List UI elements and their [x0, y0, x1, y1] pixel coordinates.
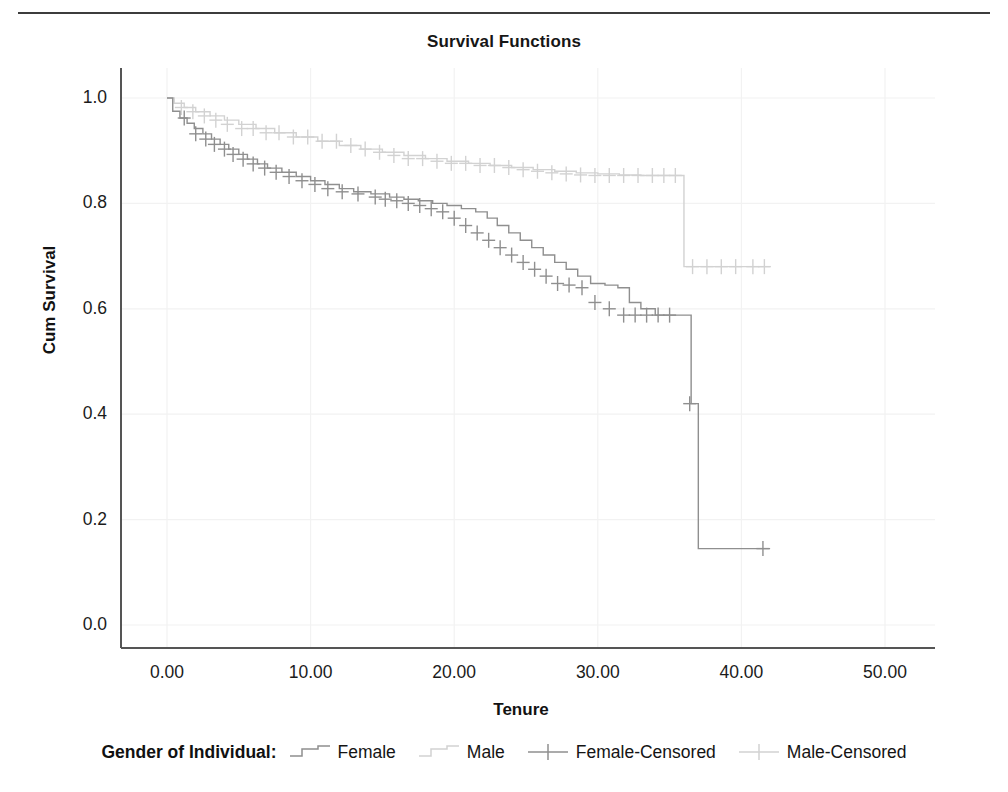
series-female [167, 98, 770, 556]
chart-legend: Gender of Individual: FemaleMaleFemale-C… [0, 735, 1008, 769]
chart-page: Survival Functions Cum Survival Tenure 0… [0, 0, 1008, 792]
y-tick-label: 0.2 [37, 509, 107, 530]
legend-item-male[interactable]: Male [418, 742, 505, 763]
y-tick-label: 0.0 [37, 614, 107, 635]
x-tick-label: 20.00 [404, 662, 504, 683]
x-tick-label: 50.00 [835, 662, 935, 683]
legend-item-label: Male-Censored [787, 742, 907, 763]
legend-item-label: Female-Censored [576, 742, 716, 763]
y-tick-label: 0.6 [37, 298, 107, 319]
censor-marks-male [175, 100, 771, 274]
legend-item-female-censored[interactable]: Female-Censored [527, 742, 716, 763]
plus-mark-icon [527, 742, 569, 762]
legend-item-label: Male [467, 742, 505, 763]
step-line-icon [289, 742, 331, 762]
x-tick-label: 30.00 [548, 662, 648, 683]
x-axis-label: Tenure [121, 700, 921, 720]
legend-item-list: FemaleMaleFemale-CensoredMale-Censored [289, 742, 907, 763]
censor-marks-female [178, 111, 770, 557]
legend-item-label: Female [338, 742, 396, 763]
step-line-icon [418, 742, 460, 762]
x-tick-label: 10.00 [261, 662, 361, 683]
y-tick-label: 1.0 [37, 87, 107, 108]
legend-title: Gender of Individual: [101, 742, 276, 763]
legend-item-female[interactable]: Female [289, 742, 396, 763]
plot-area: Cum Survival Tenure 0.00.20.40.60.81.0 0… [0, 0, 1008, 792]
y-tick-label: 0.8 [37, 192, 107, 213]
plus-mark-icon [738, 742, 780, 762]
series-lines [167, 98, 771, 556]
y-tick-label: 0.4 [37, 403, 107, 424]
series-male [167, 98, 771, 274]
x-tick-label: 0.00 [117, 662, 217, 683]
x-tick-label: 40.00 [691, 662, 791, 683]
legend-item-male-censored[interactable]: Male-Censored [738, 742, 907, 763]
